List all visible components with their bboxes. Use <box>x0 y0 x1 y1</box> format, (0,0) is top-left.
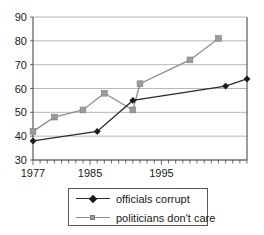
legend-label-officials-corrupt: officials corrupt <box>116 193 190 205</box>
data-point-marker <box>187 57 193 63</box>
x-tick-label: 1977 <box>21 167 45 179</box>
y-tick-label: 80 <box>15 35 27 47</box>
diamond-icon <box>76 193 110 205</box>
legend-item-officials-corrupt: officials corrupt <box>69 189 207 208</box>
y-tick-labels: 90807060504030 <box>15 11 27 166</box>
gridlines-group <box>33 17 247 160</box>
chart-legend: officials corrupt politicians don't care <box>68 188 208 226</box>
y-tick-label: 90 <box>15 11 27 23</box>
series-politicians-dont-care <box>30 36 221 135</box>
legend-item-politicians-dont-care: politicians don't care <box>69 208 207 227</box>
data-point-marker <box>30 138 36 144</box>
data-point-marker <box>137 81 143 87</box>
x-tick-label: 1995 <box>149 167 173 179</box>
series-line <box>33 38 218 131</box>
x-tick-labels: 197719851995 <box>21 167 174 179</box>
y-tick-label: 60 <box>15 83 27 95</box>
data-point-marker <box>101 90 107 96</box>
square-icon <box>76 212 110 224</box>
y-tick-label: 70 <box>15 59 27 71</box>
data-point-marker <box>216 36 222 42</box>
data-point-marker <box>52 114 58 120</box>
x-tick-label: 1985 <box>78 167 102 179</box>
line-chart: 90807060504030 197719851995 officials co… <box>0 0 264 235</box>
data-point-marker <box>244 76 250 82</box>
data-point-marker <box>30 129 36 135</box>
data-point-marker <box>130 107 136 113</box>
y-tick-label: 40 <box>15 130 27 142</box>
y-tick-label: 50 <box>15 106 27 118</box>
x-axis <box>33 160 247 165</box>
data-point-marker <box>80 107 86 113</box>
y-tick-label: 30 <box>15 154 27 166</box>
legend-label-politicians-dont-care: politicians don't care <box>116 212 215 224</box>
